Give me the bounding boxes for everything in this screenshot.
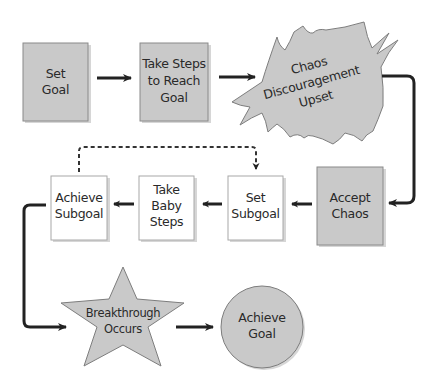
node-accept-chaos: Accept Chaos: [317, 167, 386, 247]
node-achieve-goal-line-1: Achieve: [238, 310, 286, 325]
node-set-subgoal: Set Subgoal: [228, 176, 286, 242]
node-set-goal-line-1: Set: [46, 66, 66, 81]
node-set-goal: Set Goal: [23, 43, 91, 123]
node-take-baby-steps-line-1: Take: [152, 182, 180, 197]
node-set-subgoal-line-1: Set: [246, 190, 266, 205]
node-achieve-subgoal-line-1: Achieve: [55, 190, 103, 205]
node-achieve-subgoal: Achieve Subgoal: [51, 176, 110, 242]
dotted-loop-achieve-to-set-subgoal: [79, 147, 256, 172]
node-take-steps-line-1: Take Steps: [141, 56, 206, 71]
node-accept-chaos-line-2: Chaos: [332, 206, 369, 221]
flowchart-diagram: Set Goal Take Steps to Reach Goal Chaos …: [0, 0, 443, 390]
node-take-steps-line-3: Goal: [160, 90, 187, 105]
node-breakthrough-line-2: Occurs: [104, 322, 142, 336]
node-take-baby-steps-line-2: Baby: [151, 198, 182, 213]
node-take-steps-line-2: to Reach: [148, 73, 200, 88]
node-take-steps: Take Steps to Reach Goal: [140, 43, 211, 123]
node-set-subgoal-line-2: Subgoal: [231, 206, 279, 221]
node-achieve-goal-line-2: Goal: [248, 326, 275, 341]
node-set-goal-line-2: Goal: [42, 82, 69, 97]
node-achieve-subgoal-line-2: Subgoal: [55, 206, 103, 221]
connector-chaos-to-accept-chaos: [382, 76, 414, 203]
node-chaos: Chaos Discouragement Upset: [232, 22, 398, 144]
node-breakthrough-line-1: Breakthrough: [86, 306, 161, 320]
node-accept-chaos-line-1: Accept: [330, 190, 371, 205]
node-breakthrough: Breakthrough Occurs: [61, 267, 184, 366]
node-take-baby-steps-line-3: Steps: [150, 214, 183, 229]
node-achieve-goal: Achieve Goal: [221, 286, 305, 370]
node-take-baby-steps: Take Baby Steps: [139, 176, 197, 242]
